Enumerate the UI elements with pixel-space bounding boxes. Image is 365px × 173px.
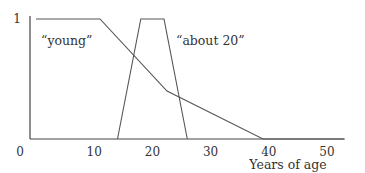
annotation-label: “about 20” [176, 33, 245, 48]
x-axis-label: Years of age [248, 157, 326, 172]
fuzzy-membership-chart: 101020304050Years of age“young”“about 20… [0, 0, 365, 173]
x-tick-label: 30 [203, 145, 218, 159]
labels: 101020304050Years of age“young”“about 20… [13, 12, 334, 172]
x-tick-label: 20 [145, 145, 160, 159]
y-tick-label: 1 [13, 12, 21, 26]
annotation-label: “young” [41, 33, 92, 48]
x-tick-label: 10 [87, 145, 102, 159]
x-tick-label: 0 [16, 145, 24, 159]
